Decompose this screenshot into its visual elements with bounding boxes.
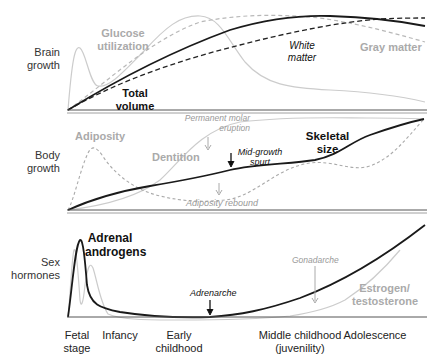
row-label-line: growth [0, 162, 60, 175]
gonadarche-arrow-icon [312, 266, 318, 303]
stage-line: Middle childhood [250, 329, 350, 342]
adrenal-androgens-label: Adrenal androgens [85, 232, 135, 260]
label-line: testosterone [352, 295, 417, 308]
stage-infancy: Infancy [98, 329, 142, 342]
permanent-molar-arrow-icon [205, 137, 211, 150]
row-label-line: Body [0, 149, 60, 162]
stage-line: Adolescence [340, 329, 410, 342]
fetal-gonadal-curve [68, 250, 400, 320]
label-line: volume [115, 100, 155, 113]
label-line: Mid-growth [235, 147, 285, 157]
row-label-line: hormones [0, 269, 60, 282]
glucose-utilization-label: Glucose utilization [93, 27, 153, 52]
stage-early-childhood: Early childhood [152, 329, 206, 354]
row-label-hormones: Sex hormones [0, 256, 60, 281]
row-label-brain: Brain growth [0, 46, 60, 71]
row-label-line: growth [0, 59, 60, 72]
row-label-body: Body growth [0, 149, 60, 174]
total-volume-label: Total volume [115, 87, 155, 112]
label-line: spurt [235, 157, 285, 167]
label-line: androgens [85, 246, 135, 260]
permanent-molar-label: Permanent molar eruption [175, 114, 250, 134]
estrogen-testosterone-label: Estrogen/ testosterone [352, 282, 417, 307]
stage-adolescence: Adolescence [340, 329, 410, 342]
adiposity-rebound-arrow-icon [216, 183, 222, 195]
mid-growth-arrow-icon [228, 153, 234, 167]
label-line: Estrogen/ [352, 282, 417, 295]
mid-growth-spurt-label: Mid-growth spurt [235, 147, 285, 168]
label-line: Glucose [93, 27, 153, 40]
label-line: utilization [93, 40, 153, 53]
stage-line: Early [152, 329, 206, 342]
stage-line: stage [62, 342, 92, 355]
stage-line: Fetal [62, 329, 92, 342]
row-label-line: Brain [0, 46, 60, 59]
life-history-diagram [0, 0, 440, 362]
stage-fetal: Fetal stage [62, 329, 92, 354]
row-label-line: Sex [0, 256, 60, 269]
adiposity-label: Adiposity [75, 130, 125, 143]
label-line: size [305, 143, 350, 156]
adrenarche-label: Adrenarche [190, 288, 237, 298]
label-line: Skeletal [305, 130, 350, 143]
stage-line: (juvenility) [250, 342, 350, 355]
label-line: Total [115, 87, 155, 100]
stage-line: childhood [152, 342, 206, 355]
gonadarche-label: Gonadarche [292, 256, 339, 266]
label-line: matter [282, 52, 322, 64]
adrenarche-arrow-icon [207, 300, 213, 315]
white-matter-label: White matter [282, 40, 322, 63]
adiposity-rebound-label: Adiposity rebound [186, 198, 258, 208]
stage-line: Infancy [98, 329, 142, 342]
label-line: Adrenal [85, 232, 135, 246]
stage-middle-childhood: Middle childhood (juvenility) [250, 329, 350, 354]
skeletal-size-label: Skeletal size [305, 130, 350, 156]
gray-matter-label: Gray matter [360, 41, 422, 54]
label-line: eruption [175, 124, 250, 134]
dentition-label: Dentition [152, 151, 200, 164]
label-line: White [282, 40, 322, 52]
